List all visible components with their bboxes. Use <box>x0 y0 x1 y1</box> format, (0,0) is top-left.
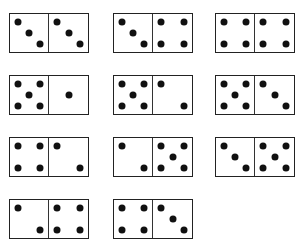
domino-half-left <box>10 14 49 52</box>
pip-dot <box>243 18 250 25</box>
pip-dot <box>77 41 84 48</box>
pip-dot <box>77 227 84 234</box>
pip-dot <box>157 142 164 149</box>
pip-dot <box>37 227 44 234</box>
pip-dot <box>181 103 188 110</box>
pip-dot <box>118 80 125 87</box>
domino-half-right <box>153 14 192 52</box>
pip-dot <box>157 80 164 87</box>
pip-dot <box>243 41 250 48</box>
pip-dot <box>243 103 250 110</box>
pip-dot <box>65 30 72 37</box>
pip-dot <box>77 165 84 172</box>
pip-dot <box>14 80 21 87</box>
domino-5-3 <box>215 75 295 115</box>
domino-half-left <box>114 138 153 176</box>
pip-dot <box>53 18 60 25</box>
pip-dot <box>130 30 137 37</box>
domino-3-3 <box>9 13 89 53</box>
pip-dot <box>181 18 188 25</box>
domino-half-left <box>10 138 49 176</box>
domino-half-left <box>114 14 153 52</box>
pip-dot <box>243 165 250 172</box>
pip-dot <box>37 41 44 48</box>
domino-3-4 <box>113 13 193 53</box>
pip-dot <box>26 92 33 99</box>
pip-dot <box>220 18 227 25</box>
pip-dot <box>141 165 148 172</box>
pip-dot <box>14 165 21 172</box>
pip-dot <box>141 204 148 211</box>
domino-half-right <box>255 76 294 114</box>
domino-half-right <box>49 138 88 176</box>
pip-dot <box>157 41 164 48</box>
pip-dot <box>141 227 148 234</box>
domino-half-right <box>49 76 88 114</box>
pip-dot <box>53 142 60 149</box>
domino-4-3 <box>113 199 193 239</box>
pip-dot <box>259 165 266 172</box>
pip-dot <box>141 41 148 48</box>
pip-dot <box>220 103 227 110</box>
pip-dot <box>220 80 227 87</box>
pip-dot <box>157 204 164 211</box>
domino-half-left <box>10 200 49 238</box>
domino-half-left <box>114 76 153 114</box>
pip-dot <box>118 204 125 211</box>
pip-dot <box>259 18 266 25</box>
domino-3-5 <box>215 137 295 177</box>
pip-dot <box>181 142 188 149</box>
pip-dot <box>157 18 164 25</box>
pip-dot <box>53 227 60 234</box>
pip-dot <box>259 80 266 87</box>
pip-dot <box>259 41 266 48</box>
pip-dot <box>169 216 176 223</box>
domino-half-right <box>49 14 88 52</box>
domino-half-right <box>255 14 294 52</box>
domino-half-right <box>255 138 294 176</box>
domino-2-4 <box>9 199 89 239</box>
domino-half-right <box>153 200 192 238</box>
domino-half-left <box>216 138 255 176</box>
domino-half-right <box>153 138 192 176</box>
pip-dot <box>232 154 239 161</box>
pip-dot <box>181 41 188 48</box>
pip-dot <box>181 165 188 172</box>
pip-dot <box>283 103 290 110</box>
domino-half-right <box>49 200 88 238</box>
pip-dot <box>118 18 125 25</box>
pip-dot <box>259 142 266 149</box>
domino-5-2 <box>113 75 193 115</box>
pip-dot <box>118 103 125 110</box>
domino-2-5 <box>113 137 193 177</box>
pip-dot <box>37 103 44 110</box>
pip-dot <box>220 142 227 149</box>
pip-dot <box>14 18 21 25</box>
pip-dot <box>220 41 227 48</box>
domino-4-2 <box>9 137 89 177</box>
pip-dot <box>14 142 21 149</box>
pip-dot <box>37 142 44 149</box>
pip-dot <box>283 142 290 149</box>
pip-dot <box>53 204 60 211</box>
domino-half-left <box>10 76 49 114</box>
pip-dot <box>271 154 278 161</box>
domino-4-4 <box>215 13 295 53</box>
pip-dot <box>65 92 72 99</box>
pip-dot <box>169 154 176 161</box>
domino-half-right <box>153 76 192 114</box>
pip-dot <box>157 165 164 172</box>
pip-dot <box>118 227 125 234</box>
pip-dot <box>283 18 290 25</box>
pip-dot <box>118 142 125 149</box>
pip-dot <box>130 92 137 99</box>
pip-dot <box>243 80 250 87</box>
domino-5-1 <box>9 75 89 115</box>
domino-half-left <box>216 14 255 52</box>
pip-dot <box>283 165 290 172</box>
pip-dot <box>26 30 33 37</box>
pip-dot <box>77 204 84 211</box>
pip-dot <box>14 204 21 211</box>
pip-dot <box>181 227 188 234</box>
pip-dot <box>232 92 239 99</box>
